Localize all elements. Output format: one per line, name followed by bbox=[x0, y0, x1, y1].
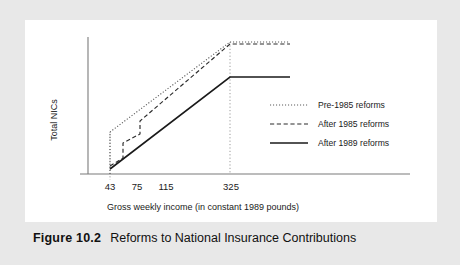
chart-panel: Total NICs 43 75 115 325 Gross weekly in… bbox=[25, 20, 437, 222]
series-line-pre-1985 bbox=[110, 42, 290, 174]
series-pre-1985-reforms bbox=[110, 42, 290, 174]
y-axis-title: Total NICs bbox=[49, 99, 59, 141]
series-line-after-1989 bbox=[110, 77, 290, 169]
legend-label-after-1985: After 1985 reforms bbox=[318, 119, 389, 129]
figure-caption: Figure 10.2Reforms to National Insurance… bbox=[33, 231, 356, 245]
legend-item-after-1989: After 1989 reforms bbox=[270, 138, 389, 148]
nics-line-chart: Total NICs 43 75 115 325 Gross weekly in… bbox=[25, 20, 437, 222]
legend-item-pre-1985: Pre-1985 reforms bbox=[270, 100, 385, 110]
x-tick-label-75: 75 bbox=[132, 181, 143, 192]
figure-container: Total NICs 43 75 115 325 Gross weekly in… bbox=[0, 0, 460, 265]
figure-caption-text: Reforms to National Insurance Contributi… bbox=[110, 231, 356, 245]
x-axis-title: Gross weekly income (in constant 1989 po… bbox=[107, 202, 299, 212]
figure-caption-number: Figure 10.2 bbox=[33, 231, 101, 245]
legend-label-after-1989: After 1989 reforms bbox=[318, 138, 389, 148]
series-after-1989-reforms bbox=[110, 77, 290, 169]
legend-item-after-1985: After 1985 reforms bbox=[270, 119, 389, 129]
x-tick-label-325: 325 bbox=[223, 181, 239, 192]
x-tick-label-43: 43 bbox=[105, 181, 116, 192]
chart-legend: Pre-1985 reforms After 1985 reforms Afte… bbox=[270, 100, 389, 148]
legend-label-pre-1985: Pre-1985 reforms bbox=[318, 100, 385, 110]
x-tick-label-115: 115 bbox=[158, 181, 173, 192]
